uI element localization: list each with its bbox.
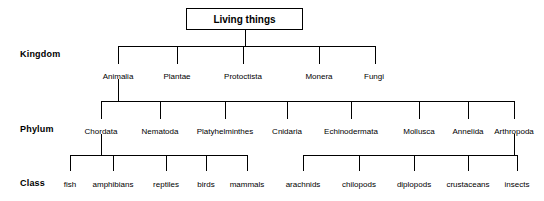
connector-kingdom-drop-2 xyxy=(243,46,244,64)
connector-arthropoda-drop-0 xyxy=(303,155,304,171)
class-node-3: birds xyxy=(197,180,214,189)
connector-phylum-drop-7 xyxy=(514,101,515,119)
phylum-node-0: Chordata xyxy=(85,127,118,136)
class-node-0: fish xyxy=(64,180,76,189)
class-node-8: crustaceans xyxy=(446,180,489,189)
connector-chordata-drop-0 xyxy=(70,155,71,171)
root-node-living-things: Living things xyxy=(186,8,303,30)
connector-arthropoda-bus xyxy=(303,155,517,156)
connector-kingdom-drop-0 xyxy=(118,46,119,64)
connector-arthropoda-drop-2 xyxy=(414,155,415,171)
class-node-6: chilopods xyxy=(342,180,376,189)
connector-arthropoda-drop-3 xyxy=(468,155,469,171)
phylum-node-4: Echinodermata xyxy=(324,127,378,136)
connector-phylum-drop-1 xyxy=(160,101,161,119)
connector-kingdom-drop-3 xyxy=(319,46,320,64)
class-node-9: insects xyxy=(505,180,530,189)
connector-chordata-stem xyxy=(101,134,102,155)
rank-label-kingdom: Kingdom xyxy=(20,49,60,59)
connector-arthropoda-drop-1 xyxy=(359,155,360,171)
connector-kingdom-bus xyxy=(118,46,375,47)
connector-chordata-drop-4 xyxy=(247,155,248,171)
connector-phylum-drop-6 xyxy=(468,101,469,119)
class-node-5: arachnids xyxy=(286,180,321,189)
class-node-1: amphibians xyxy=(93,180,134,189)
kingdom-node-1: Plantae xyxy=(163,72,190,81)
phylum-node-2: Platyhelminthes xyxy=(197,127,253,136)
phylum-node-1: Nematoda xyxy=(142,127,179,136)
connector-chordata-drop-2 xyxy=(166,155,167,171)
taxonomy-diagram: Kingdom Phylum Class Living things Anima… xyxy=(0,0,544,201)
connector-chordata-drop-3 xyxy=(206,155,207,171)
connector-root-stem xyxy=(245,30,246,46)
connector-phylum-drop-2 xyxy=(225,101,226,119)
connector-phylum-drop-4 xyxy=(351,101,352,119)
kingdom-node-0: Animalia xyxy=(103,72,134,81)
rank-label-phylum: Phylum xyxy=(20,124,54,134)
connector-phylum-drop-5 xyxy=(419,101,420,119)
class-node-7: diplopods xyxy=(397,180,431,189)
phylum-node-7: Arthropoda xyxy=(494,127,534,136)
kingdom-node-4: Fungi xyxy=(364,72,384,81)
connector-arthropoda-drop-4 xyxy=(517,155,518,171)
rank-label-class: Class xyxy=(20,178,45,188)
class-node-4: mammals xyxy=(230,180,265,189)
kingdom-node-3: Monera xyxy=(305,72,332,81)
connector-chordata-drop-1 xyxy=(113,155,114,171)
phylum-node-6: Annelida xyxy=(452,127,483,136)
kingdom-node-2: Protoctista xyxy=(224,72,262,81)
phylum-node-5: Mollusca xyxy=(403,127,435,136)
connector-phylum-drop-0 xyxy=(101,101,102,119)
connector-kingdom-drop-4 xyxy=(375,46,376,64)
connector-chordata-bus xyxy=(70,155,247,156)
connector-kingdom-drop-1 xyxy=(177,46,178,64)
connector-phylum-drop-3 xyxy=(287,101,288,119)
class-node-2: reptiles xyxy=(153,180,179,189)
phylum-node-3: Cnidaria xyxy=(272,127,302,136)
connector-phylum-bus xyxy=(101,101,514,102)
connector-animalia-stem xyxy=(118,79,119,101)
connector-arthropoda-stem xyxy=(514,134,515,155)
